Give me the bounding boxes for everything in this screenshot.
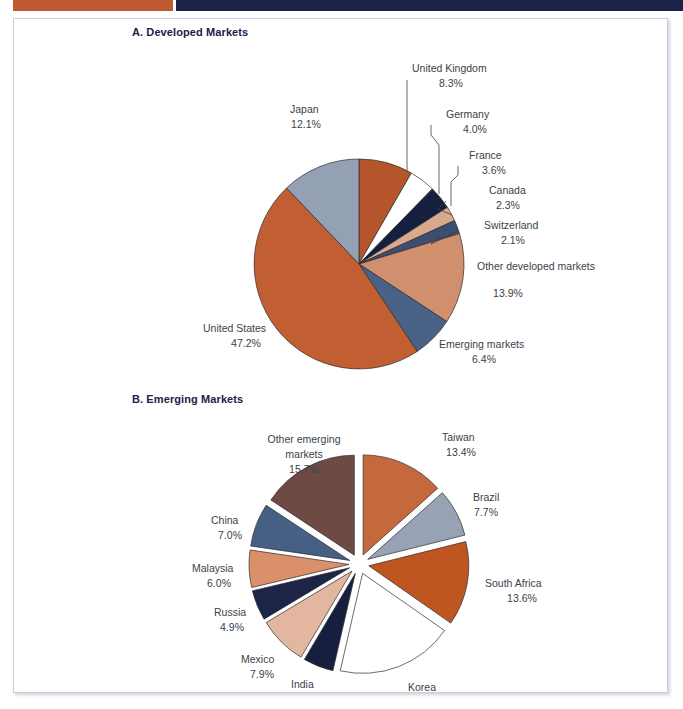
label-malaysia-value: 6.0% [207, 577, 231, 589]
banner-orange-block [13, 0, 173, 11]
label-india-value: 4.9% [294, 693, 318, 694]
label-taiwan-name: Taiwan [442, 431, 475, 443]
label-russia-value: 4.9% [220, 621, 244, 633]
label-china-name: China [211, 514, 239, 526]
label-india-name: India [291, 678, 314, 690]
label-korea-name: Korea [408, 681, 436, 693]
banner-navy-block [176, 0, 683, 11]
label-other-emerging-name-line1: Other emerging [268, 433, 341, 445]
label-other-emerging-value: 15.7% [289, 463, 319, 475]
page-frame: A. Developed Markets United Kingdom 8.3%… [13, 18, 668, 693]
label-china-value: 7.0% [218, 529, 242, 541]
pie-chart-emerging-markets: Taiwan 13.4% Brazil 7.7% South Africa 13… [14, 19, 667, 694]
label-mexico-value: 7.9% [250, 668, 274, 680]
label-russia-name: Russia [214, 606, 246, 618]
label-other-emerging-name-line2: markets [285, 448, 322, 460]
label-taiwan-value: 13.4% [446, 446, 476, 458]
label-malaysia-name: Malaysia [192, 562, 234, 574]
label-mexico-name: Mexico [241, 653, 274, 665]
label-south-africa-name: South Africa [485, 577, 542, 589]
label-south-africa-value: 13.6% [507, 592, 537, 604]
pie-b-slices [249, 455, 469, 673]
label-brazil-value: 7.7% [474, 506, 498, 518]
label-brazil-name: Brazil [473, 491, 499, 503]
top-banner [0, 0, 683, 11]
